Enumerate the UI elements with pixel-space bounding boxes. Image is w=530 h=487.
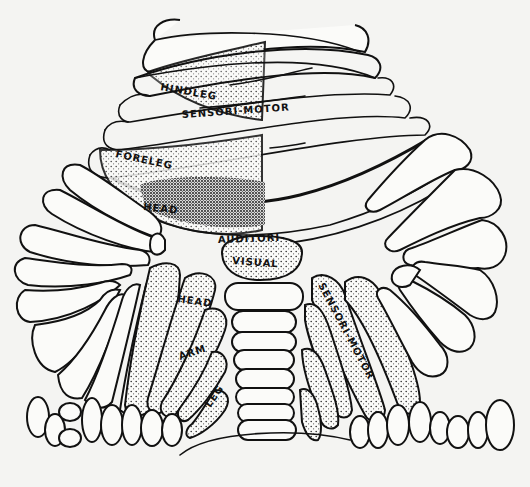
label-auditori: AUDITORI-: [218, 232, 286, 245]
cerebellum-diagram: HINDLEG SENSORI-MOTOR FORELEG HEAD AUDIT…: [0, 0, 530, 487]
